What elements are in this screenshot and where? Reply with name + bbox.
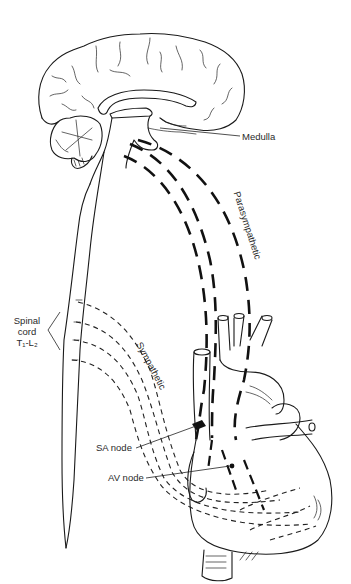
spinal-cord [62, 152, 104, 548]
sa-node [192, 420, 206, 430]
label-sa-node: SA node [96, 442, 132, 453]
av-node [230, 464, 235, 469]
heart [188, 314, 332, 581]
label-spinal-line3: T₁-L₂ [6, 337, 48, 348]
label-spinal-line1: Spinal [6, 315, 48, 326]
label-spinal-line2: cord [6, 326, 48, 337]
label-medulla: Medulla [242, 131, 275, 142]
label-spinal-cord: Spinal cord T₁-L₂ [6, 315, 48, 348]
autonomic-heart-diagram [0, 0, 351, 584]
brain [39, 33, 245, 184]
sympathetic-pathway [72, 300, 310, 525]
parasympathetic-pathway [124, 140, 250, 440]
label-av-node: AV node [108, 472, 144, 483]
